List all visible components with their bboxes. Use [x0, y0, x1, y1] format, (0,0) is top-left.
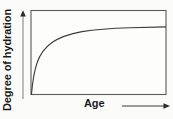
hydration-vs-age-figure: Degree of hydration Age [0, 0, 173, 119]
plot-frame [31, 11, 166, 95]
x-axis-arrow [122, 103, 170, 108]
x-axis-label-text: Age [84, 98, 104, 109]
y-axis-arrow [20, 10, 26, 99]
y-axis-label-text: Degree of hydration [2, 8, 13, 110]
y-axis-label: Degree of hydration [0, 0, 14, 119]
